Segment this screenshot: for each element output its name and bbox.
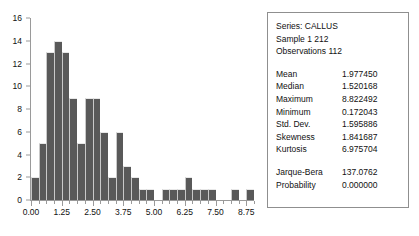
histogram-bar bbox=[108, 177, 116, 200]
stat-row: Kurtosis6.975704 bbox=[268, 143, 408, 156]
y-axis-tick bbox=[26, 154, 30, 155]
x-axis-tick-minor bbox=[208, 201, 209, 204]
histogram-bar bbox=[246, 189, 254, 200]
stat-value: 8.822492 bbox=[342, 93, 401, 106]
y-axis-tick-label: 0 bbox=[17, 196, 22, 205]
histogram-bar bbox=[39, 143, 47, 200]
stats-spacer-1 bbox=[268, 58, 408, 68]
histogram-bar bbox=[200, 189, 208, 200]
stat-row: Maximum8.822492 bbox=[268, 93, 408, 106]
stat-value: 6.975704 bbox=[342, 143, 401, 156]
stat-label: Std. Dev. bbox=[276, 118, 342, 131]
x-axis-tick-minor bbox=[54, 201, 55, 204]
y-axis-tick-label: 4 bbox=[17, 150, 22, 159]
stat-label: Skewness bbox=[276, 131, 342, 144]
histogram-bar bbox=[77, 143, 85, 200]
histogram-bar bbox=[100, 132, 108, 200]
histogram-bar bbox=[62, 52, 70, 200]
stat-value: 1.595886 bbox=[342, 118, 401, 131]
x-axis-tick-label: 0.00 bbox=[23, 208, 40, 217]
y-axis-tick-label: 6 bbox=[17, 128, 22, 137]
y-axis-tick bbox=[26, 63, 30, 64]
x-axis-tick-minor bbox=[108, 201, 109, 204]
histogram-bar bbox=[31, 177, 39, 200]
x-axis-tick-label: 1.25 bbox=[53, 208, 70, 217]
x-axis-tick-minor bbox=[131, 201, 132, 204]
x-axis-tick-minor bbox=[116, 201, 117, 204]
x-axis-tick-minor bbox=[231, 201, 232, 204]
x-axis-tick-minor bbox=[100, 201, 101, 204]
x-axis-tick-minor bbox=[146, 201, 147, 204]
y-axis-tick-label: 8 bbox=[17, 105, 22, 114]
y-axis-tick bbox=[26, 200, 30, 201]
x-axis-tick-major bbox=[216, 201, 217, 206]
x-axis-tick-label: 3.75 bbox=[115, 208, 132, 217]
y-axis-tick-label: 12 bbox=[13, 59, 22, 68]
x-axis-tick-minor bbox=[200, 201, 201, 204]
x-axis-tick-major bbox=[123, 201, 124, 206]
x-axis-tick-label: 2.50 bbox=[84, 208, 101, 217]
histogram-bar bbox=[123, 166, 131, 200]
y-axis-tick-label: 2 bbox=[17, 173, 22, 182]
x-axis-tick-minor bbox=[139, 201, 140, 204]
histogram-bar bbox=[169, 189, 177, 200]
stat-label: Probability bbox=[276, 179, 342, 192]
y-axis-tick bbox=[26, 177, 30, 178]
histogram-bar bbox=[146, 189, 154, 200]
x-axis-tick-minor bbox=[69, 201, 70, 204]
y-axis-tick bbox=[26, 40, 30, 41]
stat-label: Jarque-Bera bbox=[276, 166, 342, 179]
stats-header-line: Observations 112 bbox=[268, 45, 408, 58]
y-axis-tick-label: 16 bbox=[13, 14, 22, 23]
x-axis-tick-label: 5.00 bbox=[146, 208, 163, 217]
y-axis-tick bbox=[26, 18, 30, 19]
stat-row: Std. Dev.1.595886 bbox=[268, 118, 408, 131]
stat-test-row: Probability0.000000 bbox=[268, 179, 408, 192]
stats-header: Series: CALLUSSample 1 212Observations 1… bbox=[268, 20, 408, 58]
stats-tests: Jarque-Bera137.0762Probability0.000000 bbox=[268, 166, 408, 191]
histogram-bar bbox=[139, 189, 147, 200]
histogram-bar bbox=[192, 189, 200, 200]
stat-label: Minimum bbox=[276, 106, 342, 119]
stat-value: 1.977450 bbox=[342, 68, 401, 81]
stat-row: Median1.520168 bbox=[268, 80, 408, 93]
stat-label: Median bbox=[276, 80, 342, 93]
histogram-bar bbox=[231, 189, 239, 200]
stat-row: Minimum0.172043 bbox=[268, 106, 408, 119]
stat-value: 0.172043 bbox=[342, 106, 401, 119]
x-axis-tick-minor bbox=[192, 201, 193, 204]
histogram-bar bbox=[177, 189, 185, 200]
histogram-bar bbox=[46, 52, 54, 200]
x-axis-tick-minor bbox=[39, 201, 40, 204]
x-axis-tick-major bbox=[154, 201, 155, 206]
stat-label: Mean bbox=[276, 68, 342, 81]
stats-moments: Mean1.977450Median1.520168Maximum8.82249… bbox=[268, 68, 408, 156]
y-axis-tick-label: 14 bbox=[13, 37, 22, 46]
x-axis-tick-minor bbox=[169, 201, 170, 204]
x-axis-tick-label: 8.75 bbox=[238, 208, 255, 217]
plot-area bbox=[31, 18, 254, 200]
histogram-bar bbox=[208, 189, 216, 200]
x-axis-tick-minor bbox=[254, 201, 255, 204]
x-axis-tick-minor bbox=[46, 201, 47, 204]
histogram-bar bbox=[85, 98, 93, 200]
y-axis-tick bbox=[26, 109, 30, 110]
stat-row: Skewness1.841687 bbox=[268, 131, 408, 144]
chart-panel: 0246810121416 0.001.252.503.755.006.257.… bbox=[0, 0, 262, 236]
stat-value: 1.841687 bbox=[342, 131, 401, 144]
x-axis-tick-minor bbox=[85, 201, 86, 204]
x-axis-tick-label: 6.25 bbox=[177, 208, 194, 217]
y-axis-labels: 0246810121416 bbox=[0, 0, 30, 236]
histogram-bar bbox=[54, 41, 62, 200]
x-axis-tick-label: 7.50 bbox=[207, 208, 224, 217]
stat-test-row: Jarque-Bera137.0762 bbox=[268, 166, 408, 179]
histogram-bar bbox=[131, 177, 139, 200]
stat-value: 0.000000 bbox=[342, 179, 401, 192]
x-axis-tick-major bbox=[185, 201, 186, 206]
stats-header-line: Sample 1 212 bbox=[268, 33, 408, 46]
x-axis-tick-minor bbox=[77, 201, 78, 204]
x-axis-tick-minor bbox=[223, 201, 224, 204]
histogram-figure: 0246810121416 0.001.252.503.755.006.257.… bbox=[0, 0, 419, 236]
x-axis-tick-minor bbox=[239, 201, 240, 204]
x-axis-tick-minor bbox=[177, 201, 178, 204]
